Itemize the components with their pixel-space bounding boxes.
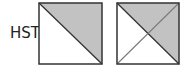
hst-label: HST [10,23,40,43]
quarter-square-triangle [116,2,180,66]
half-square-triangle [38,2,104,66]
